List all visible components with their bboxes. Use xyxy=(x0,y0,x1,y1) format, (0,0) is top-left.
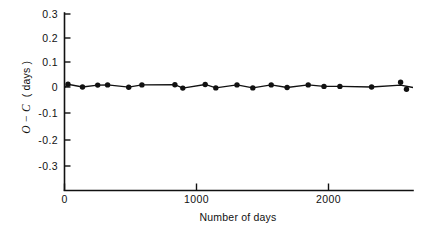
data-point xyxy=(95,82,100,87)
data-point xyxy=(284,85,289,90)
y-tick-labels: 0.3 0.2 0.1 0 -0.1 -0.2 -0.3 xyxy=(38,8,58,172)
data-point xyxy=(337,84,342,89)
data-point xyxy=(306,82,311,87)
data-point xyxy=(321,84,326,89)
data-point xyxy=(404,87,409,92)
y-tick-label: 0.1 xyxy=(42,56,58,68)
data-point xyxy=(203,82,208,87)
y-axis-title-symbol: O − C xyxy=(20,104,32,134)
data-point xyxy=(65,82,70,87)
y-axis-title-unit: ( days ) xyxy=(20,61,32,98)
data-point xyxy=(234,82,239,87)
x-tick-label: 0 xyxy=(61,193,67,205)
data-point xyxy=(180,85,185,90)
data-point xyxy=(139,82,144,87)
data-point xyxy=(213,85,218,90)
y-tick-label: 0.3 xyxy=(42,8,58,20)
x-axis-title: Number of days xyxy=(200,211,277,223)
y-tick-label: -0.1 xyxy=(38,107,58,119)
data-point xyxy=(250,85,255,90)
x-tick-label: 2000 xyxy=(316,193,341,205)
y-tick-marks xyxy=(65,14,71,166)
figure-container: 0.3 0.2 0.1 0 -0.1 -0.2 -0.3 0 1000 2000… xyxy=(0,0,423,232)
axis-spines xyxy=(65,13,414,191)
y-axis-title: O − C ( days ) xyxy=(20,61,32,134)
data-point xyxy=(369,84,374,89)
y-tick-label: 0.2 xyxy=(42,32,58,44)
data-point xyxy=(269,82,274,87)
x-tick-labels: 0 1000 2000 xyxy=(61,193,341,205)
chart-canvas: 0.3 0.2 0.1 0 -0.1 -0.2 -0.3 0 1000 2000… xyxy=(0,0,423,232)
data-point xyxy=(105,82,110,87)
x-tick-label: 1000 xyxy=(184,193,209,205)
data-point xyxy=(172,82,177,87)
x-tick-marks xyxy=(65,184,329,191)
data-point xyxy=(80,84,85,89)
y-tick-label: -0.2 xyxy=(38,134,58,146)
data-point xyxy=(126,85,131,90)
y-tick-label: -0.3 xyxy=(38,160,58,172)
y-tick-label: 0 xyxy=(52,81,58,93)
